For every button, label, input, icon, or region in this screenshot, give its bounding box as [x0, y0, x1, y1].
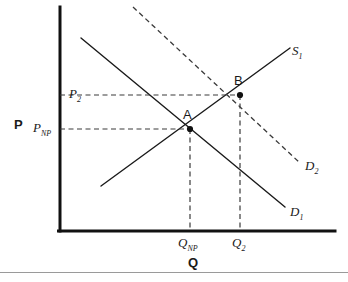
demand-curve-1-label: D1 — [290, 205, 303, 222]
y-tick-label-p2-base: P — [69, 86, 77, 101]
demand-curve-1-label-subscript: 1 — [299, 213, 303, 222]
supply-curve-1-label: S1 — [292, 44, 303, 61]
equilibrium-point-a-marker — [187, 126, 193, 132]
demand-curve-2-label: D2 — [305, 159, 318, 176]
demand-curve-2-line — [133, 7, 300, 163]
x-tick-label-qnp: QNP — [178, 236, 198, 253]
y-tick-label-p2-subscript: 2 — [77, 95, 81, 104]
demand-curve-1-label-base: D — [290, 204, 299, 219]
supply-demand-figure: P2 PNP P QNP Q2 Q S1 D1 D2 A B — [0, 0, 348, 282]
demand-curve-2-label-subscript: 2 — [314, 167, 318, 176]
demand-curve-1-line — [81, 38, 285, 207]
equilibrium-point-b-marker — [237, 92, 243, 98]
x-tick-label-qnp-subscript: NP — [187, 244, 197, 253]
y-tick-label-pnp-base: P — [33, 120, 41, 135]
supply-curve-1-line — [101, 48, 290, 186]
demand-curve-2-label-base: D — [305, 158, 314, 173]
x-tick-label-q2-subscript: 2 — [241, 244, 245, 253]
bottom-divider — [0, 272, 348, 273]
equilibrium-point-a-label: A — [183, 108, 192, 121]
x-axis-title: Q — [188, 256, 198, 269]
equilibrium-point-b-label: B — [234, 74, 243, 87]
supply-curve-1-label-subscript: 1 — [299, 52, 303, 61]
x-tick-label-q2-base: Q — [232, 235, 241, 250]
y-tick-label-pnp-subscript: NP — [41, 129, 51, 138]
y-tick-label-pnp: PNP — [33, 121, 51, 138]
x-tick-label-qnp-base: Q — [178, 235, 187, 250]
y-axis-title: P — [14, 118, 23, 131]
x-tick-label-q2: Q2 — [232, 236, 245, 253]
y-tick-label-p2: P2 — [69, 87, 81, 104]
